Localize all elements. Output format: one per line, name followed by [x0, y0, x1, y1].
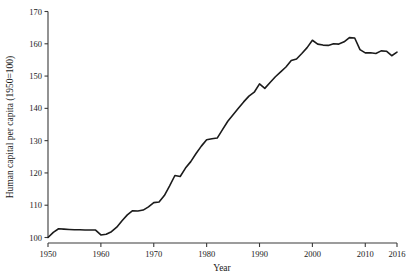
line-chart: 100110120130140150160170 195019601970198…	[0, 0, 413, 276]
x-axis-tick-group: 19501960197019801990200020102016	[40, 243, 406, 259]
x-axis-tick-label: 1950	[40, 249, 57, 259]
x-axis-title: Year	[213, 263, 231, 273]
x-axis-tick-label: 2010	[357, 249, 374, 259]
x-axis-tick-label: 2016	[389, 249, 406, 259]
y-axis-tick-label: 150	[29, 71, 42, 81]
y-axis-tick-label: 130	[29, 136, 42, 146]
chart-figure: 100110120130140150160170 195019601970198…	[0, 0, 413, 276]
y-axis-tick-label: 100	[29, 233, 42, 243]
y-axis-tick-group: 100110120130140150160170	[29, 7, 48, 243]
x-axis-tick-label: 1970	[145, 249, 162, 259]
x-axis-tick-label: 2000	[304, 249, 321, 259]
y-axis-title: Human capital per capita (1950=100)	[5, 56, 16, 199]
x-axis-tick-label: 1980	[198, 249, 215, 259]
y-axis-tick-label: 140	[29, 103, 42, 113]
y-axis-tick-label: 110	[30, 200, 42, 210]
data-series-line	[48, 38, 397, 238]
y-axis-tick-label: 160	[29, 39, 42, 49]
x-axis-tick-label: 1990	[251, 249, 268, 259]
y-axis-tick-label: 170	[29, 7, 42, 17]
y-axis-tick-label: 120	[29, 168, 42, 178]
x-axis-tick-label: 1960	[92, 249, 109, 259]
